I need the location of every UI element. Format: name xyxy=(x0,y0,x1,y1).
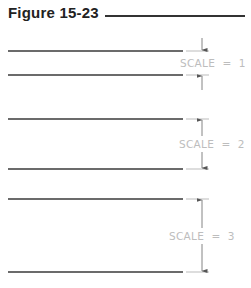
scale-group-3: SCALE = 3 xyxy=(8,199,235,272)
scale-group-2: SCALE = 2 xyxy=(8,119,245,169)
scale-group-1: SCALE = 1 xyxy=(8,38,246,90)
scale-label: SCALE = 2 xyxy=(179,138,245,150)
scale-label: SCALE = 3 xyxy=(169,230,235,242)
scale-label: SCALE = 1 xyxy=(180,57,246,69)
scale-diagram: SCALE = 1 SCALE = 2 SCALE = 3 xyxy=(0,0,251,288)
